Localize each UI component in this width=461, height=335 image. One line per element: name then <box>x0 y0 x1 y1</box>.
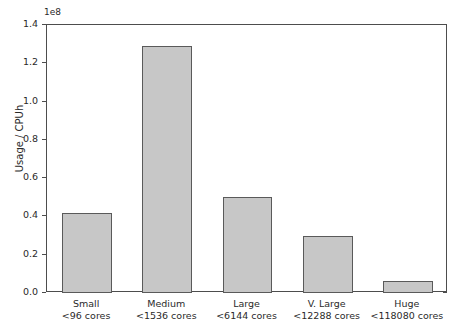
y-axis-tick-label: 1.2 <box>23 56 38 67</box>
x-axis-category-name: Huge <box>347 298 461 310</box>
bar <box>223 197 273 293</box>
bar <box>383 281 433 293</box>
y-axis-tick-label: 0.0 <box>23 286 38 297</box>
y-tick-mark-mirror <box>443 292 447 293</box>
y-axis-offset-label: 1e8 <box>44 7 61 17</box>
bar <box>303 236 353 293</box>
bar <box>62 213 112 293</box>
bar <box>142 46 192 293</box>
y-tick-mark <box>42 292 46 293</box>
y-axis-tick-label: 1.4 <box>23 18 38 29</box>
y-axis-tick-label: 0.2 <box>23 248 38 259</box>
y-axis-tick-label: 1.0 <box>23 95 38 106</box>
x-axis-category-subtitle: <118080 cores <box>347 310 461 322</box>
y-axis-tick-label: 0.8 <box>23 133 38 144</box>
y-axis-tick-label: 0.6 <box>23 171 38 182</box>
x-axis-tick-label: Huge<118080 cores <box>347 298 461 322</box>
bar-chart-figure: 1e8 Usage / CPUh 1.41.21.00.80.60.40.20.… <box>0 0 461 335</box>
plot-area <box>46 24 447 292</box>
y-axis-tick-label: 0.4 <box>23 209 38 220</box>
